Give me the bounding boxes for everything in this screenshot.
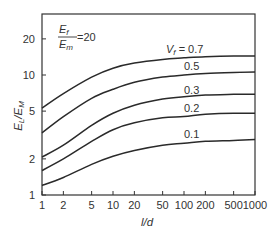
y-tick-label: 2	[29, 153, 35, 165]
curve-label-0.1: 0.1	[184, 128, 199, 140]
x-tick-label: 1	[39, 199, 45, 211]
x-tick-label: 200	[196, 199, 214, 211]
x-tick-label: 2	[60, 199, 66, 211]
svg-text:=20: =20	[77, 31, 96, 43]
plot-frame	[42, 14, 255, 195]
y-tick-label: 20	[23, 33, 35, 45]
curve-label-0.2: 0.2	[184, 102, 199, 114]
curve-label-0.7: Vf = 0.7	[166, 43, 203, 57]
svg-text:Em: Em	[59, 38, 73, 52]
curve-label-0.5: 0.5	[184, 60, 199, 72]
svg-text:Ef: Ef	[59, 23, 69, 37]
data-curves	[42, 56, 255, 186]
x-tick-label: 100	[175, 199, 193, 211]
y-axis-title: EL/EM	[12, 101, 26, 131]
x-tick-label: 1000	[243, 199, 267, 211]
chart-area: 1251020501002005001000 1251020 Ef Em =20…	[0, 0, 280, 235]
curve-vf-0.1	[42, 140, 255, 186]
x-tick-label: 50	[157, 199, 169, 211]
x-axis-ticks: 1251020501002005001000	[39, 191, 267, 211]
x-axis-title: l/d	[141, 216, 154, 228]
y-tick-label: 10	[23, 69, 35, 81]
y-tick-label: 5	[29, 105, 35, 117]
curve-vf-0.2	[42, 113, 255, 170]
x-tick-label: 10	[107, 199, 119, 211]
curve-vf-0.7	[42, 56, 255, 108]
curve-label-0.3: 0.3	[184, 84, 199, 96]
y-tick-label: 1	[29, 189, 35, 201]
x-tick-label: 20	[128, 199, 140, 211]
x-tick-label: 5	[89, 199, 95, 211]
x-tick-label: 500	[224, 199, 242, 211]
modulus-ratio-annotation: Ef Em =20	[58, 23, 96, 52]
